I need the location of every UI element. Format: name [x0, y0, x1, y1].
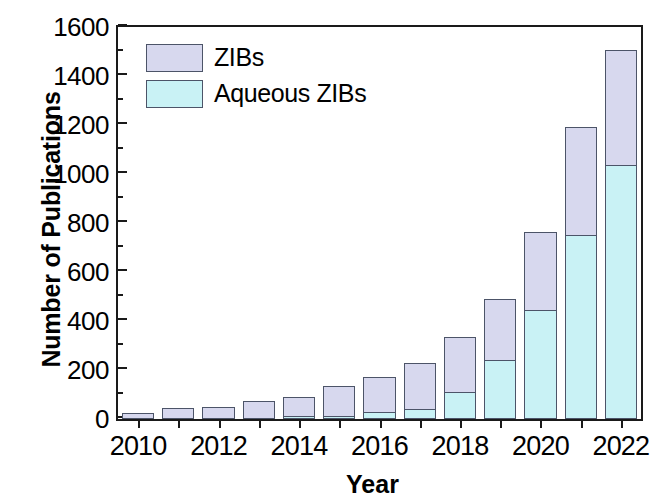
y-tick-major	[118, 269, 127, 271]
legend-label-aqueous-zibs: Aqueous ZIBs	[214, 79, 366, 108]
bar-segment-aqueous-zibs	[524, 310, 556, 419]
y-tick-label: 200	[67, 355, 109, 386]
bar-group	[565, 127, 597, 419]
legend-swatch-aqueous-zibs	[146, 80, 203, 108]
bar-segment-aqueous-zibs	[605, 165, 637, 419]
x-tick-label: 2010	[110, 431, 167, 462]
y-tick-minor	[118, 196, 123, 198]
y-tick-major	[118, 367, 127, 369]
bar-segment-zibs	[202, 407, 234, 419]
x-tick	[138, 419, 140, 428]
bar-group	[524, 232, 556, 419]
bar-group	[283, 397, 315, 419]
x-tick-label: 2018	[432, 431, 489, 462]
bar-segment-zibs	[162, 408, 194, 419]
y-tick-major	[118, 73, 127, 75]
bar-group	[202, 407, 234, 419]
plot-area: 02004006008001000120014001600 2010201220…	[116, 25, 643, 421]
bar-segment-zibs	[122, 413, 154, 419]
x-tick	[259, 419, 261, 428]
bar-group	[605, 50, 637, 419]
y-tick-major	[118, 24, 127, 26]
x-tick	[339, 419, 341, 428]
x-tick	[299, 419, 301, 428]
bar-segment-aqueous-zibs	[283, 416, 315, 419]
y-tick-minor	[118, 294, 123, 296]
y-tick-major	[118, 122, 127, 124]
bar-group	[162, 408, 194, 419]
x-tick-label: 2012	[190, 431, 247, 462]
bar-segment-aqueous-zibs	[323, 416, 355, 419]
bar-segment-aqueous-zibs	[404, 409, 436, 419]
y-tick-major	[118, 318, 127, 320]
y-tick-label: 600	[67, 257, 109, 288]
chart-legend: ZIBs Aqueous ZIBs	[146, 41, 366, 113]
bar-group	[444, 337, 476, 419]
legend-swatch-zibs	[146, 44, 203, 72]
x-tick-label: 2014	[271, 431, 328, 462]
bar-segment-zibs	[323, 386, 355, 419]
legend-label-zibs: ZIBs	[214, 43, 264, 72]
bar-segment-aqueous-zibs	[484, 360, 516, 419]
bar-segment-aqueous-zibs	[363, 412, 395, 419]
bar-group	[243, 401, 275, 419]
y-tick-minor	[118, 392, 123, 394]
y-tick-label: 400	[67, 306, 109, 337]
x-tick	[500, 419, 502, 428]
bar-group	[122, 413, 154, 419]
x-tick-label: 2016	[351, 431, 408, 462]
y-tick-minor	[118, 98, 123, 100]
x-tick	[219, 419, 221, 428]
x-axis-title: Year	[100, 470, 645, 499]
bar-group	[363, 377, 395, 419]
x-tick-label: 2022	[592, 431, 649, 462]
legend-item-zibs: ZIBs	[146, 41, 366, 74]
x-tick	[380, 419, 382, 428]
y-tick-minor	[118, 245, 123, 247]
x-tick	[621, 419, 623, 428]
bar-group	[484, 299, 516, 419]
y-tick-major	[118, 220, 127, 222]
x-tick-label: 2020	[512, 431, 569, 462]
y-tick-label: 1600	[53, 12, 109, 43]
y-tick-label: 800	[67, 208, 109, 239]
bar-group	[404, 363, 436, 419]
bar-segment-aqueous-zibs	[444, 392, 476, 419]
x-tick	[460, 419, 462, 428]
y-tick-minor	[118, 49, 123, 51]
publications-bar-chart: Number of Publications 02004006008001000…	[0, 0, 655, 499]
legend-item-aqueous-zibs: Aqueous ZIBs	[146, 77, 366, 110]
x-tick	[540, 419, 542, 428]
y-tick-minor	[118, 343, 123, 345]
y-tick-label: 1000	[53, 159, 109, 190]
bar-segment-aqueous-zibs	[565, 235, 597, 419]
y-tick-label: 0	[95, 404, 109, 435]
x-tick	[581, 419, 583, 428]
x-tick	[178, 419, 180, 428]
y-tick-label: 1200	[53, 110, 109, 141]
bar-segment-zibs	[243, 401, 275, 419]
y-tick-label: 1400	[53, 61, 109, 92]
y-tick-major	[118, 171, 127, 173]
x-tick	[420, 419, 422, 428]
bar-group	[323, 386, 355, 419]
y-tick-minor	[118, 147, 123, 149]
